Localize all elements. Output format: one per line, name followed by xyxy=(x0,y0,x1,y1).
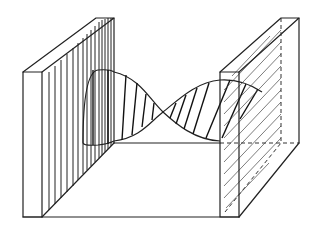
diagram-canvas xyxy=(0,0,324,234)
light-wave xyxy=(83,70,262,146)
left-plate-vertical-hatching xyxy=(49,18,111,210)
right-plate-diagonal-hatching xyxy=(224,30,281,208)
right-plate xyxy=(220,18,299,217)
wave-hatching-right xyxy=(170,80,258,138)
polarizer-diagram: Light wave passing between two polarizin… xyxy=(0,0,324,234)
left-plate xyxy=(23,18,114,217)
